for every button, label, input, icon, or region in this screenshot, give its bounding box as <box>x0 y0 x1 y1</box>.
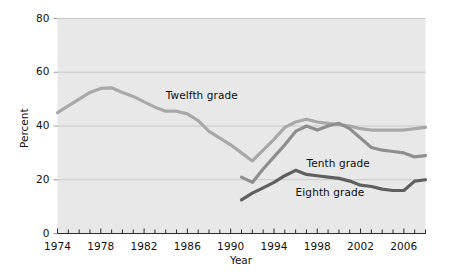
series-label-twelfth-grade: Twelfth grade <box>166 89 238 101</box>
x-tick-label: 2006 <box>387 240 421 252</box>
x-tick-label: 1986 <box>170 240 204 252</box>
x-tick-label: 1994 <box>257 240 291 252</box>
x-tick-label: 1978 <box>84 240 118 252</box>
chart-container: Percent Year 020406080 19741978198219861… <box>0 0 450 275</box>
y-tick-label: 20 <box>24 173 50 185</box>
y-tick-label: 60 <box>24 65 50 77</box>
x-tick-label: 2002 <box>344 240 378 252</box>
x-tick-label: 1990 <box>214 240 248 252</box>
line-chart <box>0 0 450 275</box>
x-tick-label: 1998 <box>300 240 334 252</box>
series-label-eighth-grade: Eighth grade <box>296 186 365 198</box>
series-label-tenth-grade: Tenth grade <box>306 157 370 169</box>
y-tick-label: 40 <box>24 119 50 131</box>
x-axis-title: Year <box>211 254 271 266</box>
y-tick-label: 0 <box>24 227 50 239</box>
x-tick-label: 1982 <box>127 240 161 252</box>
y-tick-label: 80 <box>24 12 50 24</box>
x-tick-label: 1974 <box>41 240 75 252</box>
